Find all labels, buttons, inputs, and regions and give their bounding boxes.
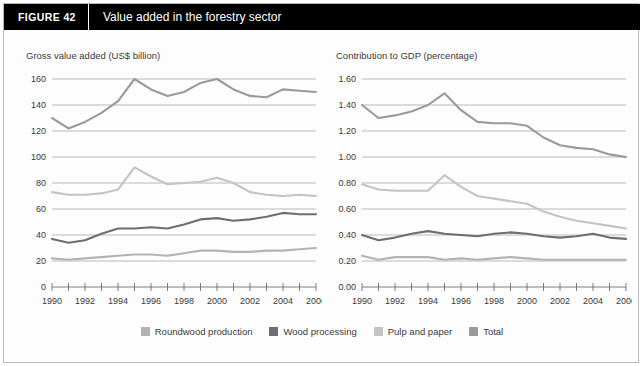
legend-label: Total — [483, 326, 503, 337]
x-axis-tick-label: 1998 — [174, 296, 194, 306]
y-axis-tick-label: 0.00 — [338, 282, 356, 292]
figure-number-label: FIGURE 42 — [4, 11, 88, 23]
series-line — [52, 79, 316, 128]
x-axis-tick-label: 1996 — [451, 296, 471, 306]
figure-frame: FIGURE 42 Value added in the forestry se… — [3, 3, 639, 363]
figure-header: FIGURE 42 Value added in the forestry se… — [4, 4, 640, 30]
y-axis-tick-label: 60 — [36, 204, 46, 214]
chart-plot-contribution-to-gdp: 0.000.200.400.600.801.001.201.401.601990… — [322, 34, 632, 319]
y-axis-tick-label: 0.20 — [338, 256, 356, 266]
legend-label: Wood processing — [283, 326, 356, 337]
figure-container: FIGURE 42 Value added in the forestry se… — [0, 0, 642, 366]
y-axis-tick-label: 0.80 — [338, 178, 356, 188]
x-axis-tick-label: 2000 — [207, 296, 227, 306]
y-axis-tick-label: 40 — [36, 230, 46, 240]
x-axis-tick-label: 2006 — [306, 296, 322, 306]
series-line — [52, 167, 316, 196]
figure-title: Value added in the forestry sector — [89, 10, 282, 24]
x-axis-tick-label: 1990 — [352, 296, 372, 306]
legend-item: Wood processing — [269, 326, 356, 337]
legend-item: Pulp and paper — [374, 326, 452, 337]
x-axis-tick-label: 1990 — [42, 296, 62, 306]
y-axis-tick-label: 140 — [31, 100, 46, 110]
x-axis-tick-label: 1996 — [141, 296, 161, 306]
x-axis-tick-label: 2000 — [517, 296, 537, 306]
y-axis-tick-label: 0.40 — [338, 230, 356, 240]
legend-swatch-icon — [469, 327, 478, 336]
y-axis-tick-label: 1.60 — [338, 74, 356, 84]
chart-plot-gross-value-added: 0204060801001201401601990199219941996199… — [12, 34, 322, 319]
legend-item: Total — [469, 326, 503, 337]
x-axis-tick-label: 1998 — [484, 296, 504, 306]
legend-item: Roundwood production — [141, 326, 253, 337]
x-axis-tick-label: 1992 — [385, 296, 405, 306]
chart-panel-gross-value-added: Gross value added (US$ billion) 02040608… — [12, 34, 322, 319]
series-line — [362, 256, 626, 260]
x-axis-tick-label: 2002 — [550, 296, 570, 306]
y-axis-tick-label: 0.60 — [338, 204, 356, 214]
x-axis-tick-label: 2002 — [240, 296, 260, 306]
series-line — [52, 248, 316, 260]
chart-legend: Roundwood productionWood processingPulp … — [4, 326, 640, 337]
y-axis-tick-label: 0 — [41, 282, 46, 292]
x-axis-tick-label: 1994 — [418, 296, 438, 306]
legend-label: Pulp and paper — [388, 326, 452, 337]
y-axis-tick-label: 20 — [36, 256, 46, 266]
x-axis-tick-label: 2006 — [616, 296, 632, 306]
y-axis-tick-label: 120 — [31, 126, 46, 136]
x-axis-tick-label: 1994 — [108, 296, 128, 306]
series-line — [362, 93, 626, 157]
legend-swatch-icon — [269, 327, 278, 336]
legend-label: Roundwood production — [155, 326, 253, 337]
series-line — [52, 213, 316, 243]
legend-swatch-icon — [374, 327, 383, 336]
series-line — [362, 231, 626, 240]
y-axis-tick-label: 160 — [31, 74, 46, 84]
x-axis-tick-label: 2004 — [273, 296, 293, 306]
y-axis-tick-label: 1.20 — [338, 126, 356, 136]
y-axis-tick-label: 100 — [31, 152, 46, 162]
x-axis-tick-label: 1992 — [75, 296, 95, 306]
y-axis-tick-label: 80 — [36, 178, 46, 188]
chart-panel-contribution-to-gdp: Contribution to GDP (percentage) 0.000.2… — [322, 34, 632, 319]
x-axis-tick-label: 2004 — [583, 296, 603, 306]
y-axis-tick-label: 1.40 — [338, 100, 356, 110]
y-axis-tick-label: 1.00 — [338, 152, 356, 162]
legend-swatch-icon — [141, 327, 150, 336]
